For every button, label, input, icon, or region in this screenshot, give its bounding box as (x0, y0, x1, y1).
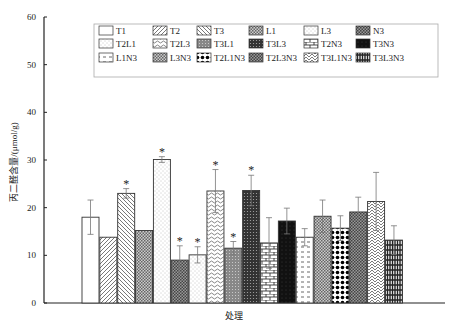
bar-T3L3 (243, 191, 260, 303)
bar-T3 (118, 193, 135, 303)
legend-swatch-T1 (99, 26, 113, 35)
legend-label-T1: T1 (116, 26, 126, 36)
legend-swatch-N3 (356, 26, 370, 35)
chart: 0102030405060 ******* T1T2T3L1L3N3T2L1T2… (0, 0, 457, 334)
legend-label-T3L1N3: T3L1N3 (321, 53, 352, 63)
legend-swatch-L1N3 (99, 53, 113, 62)
legend-swatch-T2L3N3 (249, 53, 263, 62)
y-axis-label: 丙二醛含量/(μmol/g) (8, 122, 19, 201)
significance-marker: * (230, 230, 236, 244)
y-tick-label: 40 (27, 107, 37, 117)
significance-marker: * (212, 158, 218, 172)
legend-label-T3L3: T3L3 (266, 39, 286, 49)
legend-swatch-T3 (197, 26, 211, 35)
legend-label-T2: T2 (170, 26, 180, 36)
legend-swatch-T3L1 (197, 39, 211, 48)
legend-label-L1: L1 (266, 26, 276, 36)
bar-L3 (153, 160, 170, 303)
legend-label-T3L3N3: T3L3N3 (373, 53, 404, 63)
legend-label-T3N3: T3N3 (373, 39, 394, 49)
legend-label-T2L3N3: T2L3N3 (266, 53, 297, 63)
y-tick-label: 60 (27, 12, 37, 22)
legend-swatch-T2N3 (304, 39, 318, 48)
legend-swatch-T3L3 (249, 39, 263, 48)
legend-swatch-T2L3 (153, 39, 167, 48)
legend-swatch-T2 (153, 26, 167, 35)
bars: ******* (82, 145, 402, 303)
significance-marker: * (177, 234, 183, 248)
legend-swatch-L3N3 (153, 53, 167, 62)
y-tick-label: 0 (32, 298, 37, 308)
y-tick-label: 30 (27, 155, 37, 165)
legend-label-L3N3: L3N3 (170, 53, 191, 63)
bar-T3L1 (225, 248, 242, 303)
legend-swatch-T3L1N3 (304, 53, 318, 62)
bar-L1 (136, 231, 153, 303)
legend-swatch-T3L3N3 (356, 53, 370, 62)
legend-swatch-T3N3 (356, 39, 370, 48)
bar-T2 (100, 237, 117, 303)
significance-marker: * (159, 145, 165, 159)
legend-label-T2L1: T2L1 (116, 39, 136, 49)
legend-swatch-L1 (249, 26, 263, 35)
y-tick-label: 20 (27, 203, 37, 213)
significance-marker: * (123, 177, 129, 191)
legend-swatch-T2L1 (99, 39, 113, 48)
y-tick-label: 50 (27, 60, 37, 70)
legend-swatch-T2L1N3 (197, 53, 211, 62)
legend-label-T2N3: T2N3 (321, 39, 342, 49)
y-tick-label: 10 (27, 250, 37, 260)
legend: T1T2T3L1L3N3T2L1T2L3T3L1T3L3T2N3T3N3L1N3… (94, 24, 438, 77)
x-axis-label: 处理 (225, 310, 243, 321)
legend-label-N3: N3 (373, 26, 384, 36)
legend-label-T2L1N3: T2L1N3 (214, 53, 245, 63)
legend-label-T2L3: T2L3 (170, 39, 190, 49)
legend-label-T3L1: T3L1 (214, 39, 234, 49)
legend-label-T3: T3 (214, 26, 224, 36)
legend-label-L1N3: L1N3 (116, 53, 137, 63)
significance-marker: * (195, 235, 201, 249)
significance-marker: * (248, 163, 254, 177)
legend-label-L3: L3 (321, 26, 331, 36)
bar-L1N3 (296, 237, 313, 303)
legend-swatch-L3 (304, 26, 318, 35)
